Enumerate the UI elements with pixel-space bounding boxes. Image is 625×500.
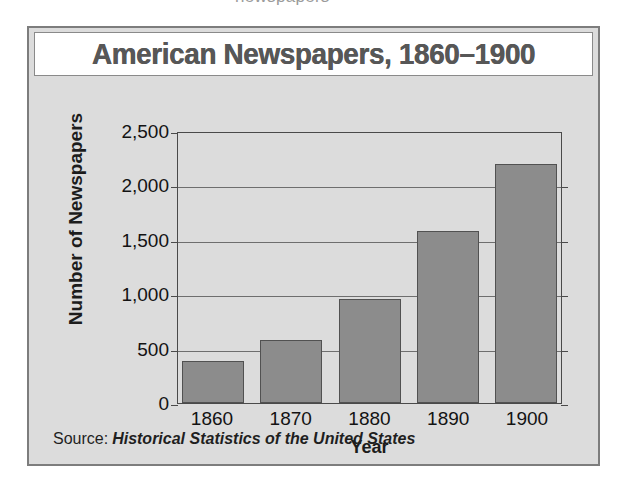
y-axis-tick-right	[561, 405, 568, 406]
bar-1890	[417, 231, 479, 403]
source-note: Source:Historical Statistics of the Unit…	[53, 430, 415, 448]
cropped-text-fragment: newspapers	[235, 0, 330, 7]
y-axis-tick-labels: 05001,0001,5002,0002,500	[87, 132, 169, 404]
bar-series	[178, 133, 561, 403]
y-axis-tick-label: 2,000	[91, 175, 169, 197]
y-axis-tick-left	[171, 187, 178, 188]
y-axis-tick-label: 0	[91, 393, 169, 415]
bar-1880	[339, 299, 401, 403]
x-axis-tick-labels: 18601870188018901900	[177, 408, 562, 430]
chart-plot-region: Number of Newspapers 05001,0001,5002,000…	[34, 80, 593, 432]
y-axis-tick-right	[561, 187, 568, 188]
page-title: American Newspapers, 1860–1900	[92, 37, 535, 71]
source-title: Historical Statistics of the United Stat…	[112, 430, 415, 447]
chart-figure: American Newspapers, 1860–1900 Number of…	[27, 26, 600, 466]
x-axis-tick-label: 1880	[339, 408, 401, 430]
source-label: Source:	[53, 430, 108, 447]
y-axis-tick-label: 1,000	[91, 284, 169, 306]
y-axis-tick-right	[561, 296, 568, 297]
x-axis-tick-label: 1860	[181, 408, 243, 430]
y-axis-tick-label: 500	[91, 339, 169, 361]
y-axis-title: Number of Newspapers	[65, 104, 87, 334]
y-axis-tick-left	[171, 405, 178, 406]
bar-1870	[260, 340, 322, 403]
cropped-top-text: newspapers	[0, 0, 625, 14]
y-axis-tick-label: 1,500	[91, 230, 169, 252]
y-axis-tick-left	[171, 296, 178, 297]
y-axis-tick-right	[561, 351, 568, 352]
y-axis-tick-label: 2,500	[91, 121, 169, 143]
plot-area	[177, 132, 562, 404]
bar-1860	[182, 361, 244, 403]
y-axis-tick-left	[171, 351, 178, 352]
x-axis-tick-label: 1890	[417, 408, 479, 430]
chart-title-band: American Newspapers, 1860–1900	[34, 32, 593, 76]
y-axis-tick-left	[171, 133, 178, 134]
y-axis-tick-left	[171, 242, 178, 243]
x-axis-tick-label: 1870	[260, 408, 322, 430]
bar-1900	[495, 164, 557, 403]
y-axis-tick-right	[561, 242, 568, 243]
x-axis-tick-label: 1900	[496, 408, 558, 430]
